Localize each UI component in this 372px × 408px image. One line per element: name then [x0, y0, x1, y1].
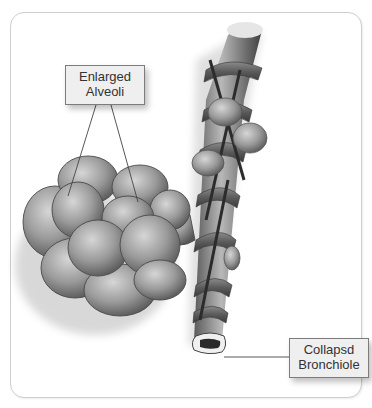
alveoli-cluster	[15, 156, 195, 335]
label-line: Collapsd	[294, 342, 364, 357]
label-enlarged-alveoli: Enlarged Alveoli	[65, 65, 145, 105]
label-collapsed-bronchiole: Collapsd Bronchiole	[289, 338, 369, 378]
bronchiole	[188, 22, 267, 354]
label-line: Alveoli	[70, 84, 140, 99]
label-line: Enlarged	[70, 69, 140, 84]
label-line: Bronchiole	[294, 357, 364, 372]
